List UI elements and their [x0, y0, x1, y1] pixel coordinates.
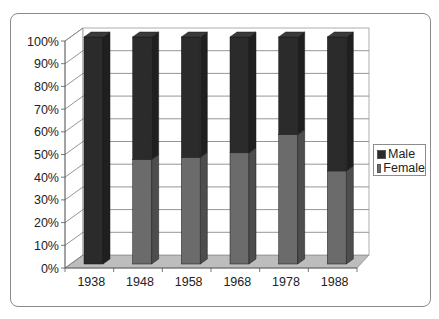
legend: Male Female	[373, 144, 426, 176]
x-axis: 193819481958196819781988	[65, 268, 357, 289]
svg-text:80%: 80%	[34, 80, 59, 94]
svg-text:1938: 1938	[77, 275, 105, 289]
svg-text:1958: 1958	[175, 275, 203, 289]
svg-text:60%: 60%	[34, 125, 59, 139]
svg-text:70%: 70%	[34, 103, 59, 117]
svg-text:50%: 50%	[34, 148, 59, 162]
legend-label-male: Male	[388, 147, 415, 161]
svg-text:1968: 1968	[223, 275, 251, 289]
legend-item-female: Female	[377, 161, 425, 175]
svg-text:10%: 10%	[34, 239, 59, 253]
svg-text:1988: 1988	[321, 275, 349, 289]
svg-text:40%: 40%	[34, 171, 59, 185]
legend-label-female: Female	[383, 161, 425, 175]
legend-swatch-male	[377, 150, 386, 159]
svg-text:30%: 30%	[34, 193, 59, 207]
svg-text:1948: 1948	[126, 275, 154, 289]
svg-text:0%: 0%	[41, 262, 59, 276]
svg-text:90%: 90%	[34, 57, 59, 71]
svg-text:1978: 1978	[272, 275, 300, 289]
svg-text:100%: 100%	[27, 35, 59, 49]
y-axis: 0%10%20%30%40%50%60%70%80%90%100%	[27, 35, 65, 276]
legend-swatch-female	[377, 164, 381, 173]
svg-text:20%: 20%	[34, 216, 59, 230]
legend-item-male: Male	[377, 147, 425, 161]
